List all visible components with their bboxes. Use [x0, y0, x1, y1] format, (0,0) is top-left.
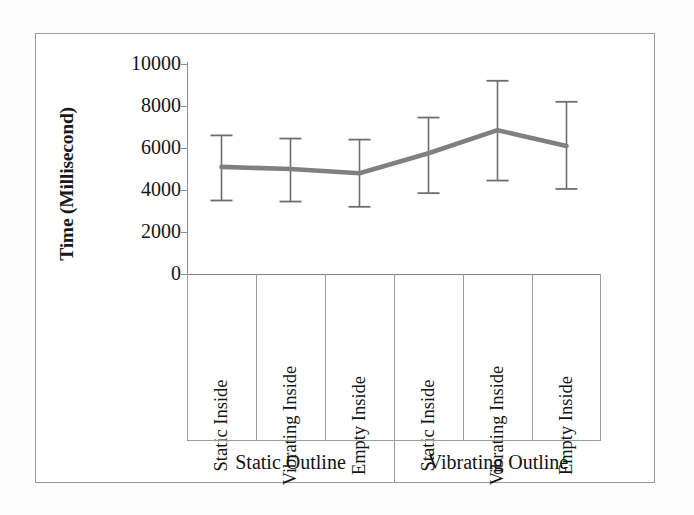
category-label: Empty Inside	[326, 274, 394, 440]
y-tick-mark	[181, 190, 187, 191]
group-label-cell: Vibrating Outline	[394, 441, 601, 483]
category-label: Vibrating Inside	[257, 274, 325, 440]
scanned-figure-page: Time (Millisecond) 100008000600040002000…	[0, 0, 694, 515]
y-tick-mark	[181, 232, 187, 233]
y-tick-mark	[181, 106, 187, 107]
category-cell: Vibrating Inside	[256, 274, 325, 440]
category-label: Static Inside	[395, 274, 463, 440]
category-label: Empty Inside	[533, 274, 600, 440]
group-axis-band: Static OutlineVibrating Outline	[187, 440, 601, 484]
y-tick-mark	[181, 64, 187, 65]
group-label-cell: Static Outline	[187, 441, 394, 483]
category-axis-band: Static InsideVibrating InsideEmpty Insid…	[187, 274, 601, 440]
category-cell: Vibrating Inside	[463, 274, 532, 440]
category-cell: Static Inside	[187, 274, 256, 440]
y-tick-mark	[181, 274, 187, 275]
y-tick-mark	[181, 148, 187, 149]
category-cell: Static Inside	[394, 274, 463, 440]
category-label: Vibrating Inside	[464, 274, 532, 440]
group-label-text: Vibrating Outline	[428, 451, 568, 474]
category-cell: Empty Inside	[532, 274, 601, 440]
group-label-text: Static Outline	[235, 451, 346, 474]
series-line	[222, 130, 567, 173]
category-cell: Empty Inside	[325, 274, 394, 440]
category-label: Static Inside	[188, 274, 256, 440]
